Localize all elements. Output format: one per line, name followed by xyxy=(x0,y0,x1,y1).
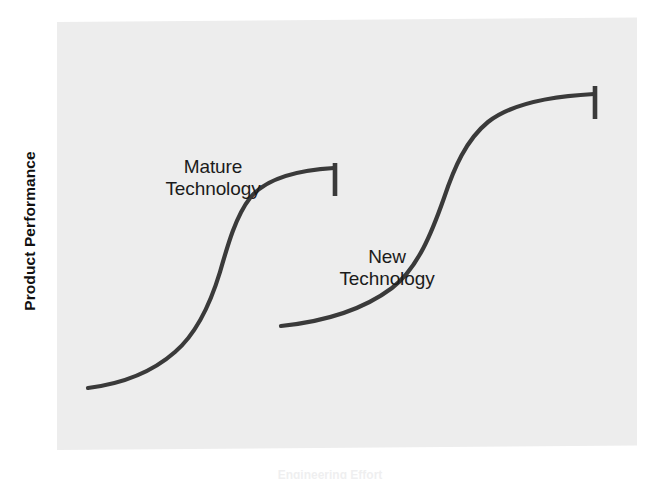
chart-figure: S-Curve Reveal Product Performance Matur… xyxy=(0,0,658,480)
annotation-mature-technology: Mature Technology xyxy=(138,156,288,200)
annotation-new-technology: New Technology xyxy=(312,246,462,290)
s-curve-lines xyxy=(0,0,658,480)
x-axis-label: Engineering Effort xyxy=(180,468,480,479)
curve-mature-technology xyxy=(88,168,334,388)
curve-new-technology xyxy=(281,94,594,326)
